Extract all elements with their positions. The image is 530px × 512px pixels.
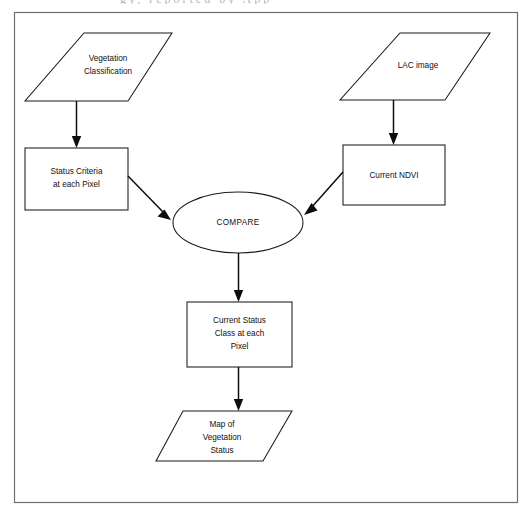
arrowhead-diagonal-icon (158, 210, 172, 221)
arrowhead-diagonal-icon (304, 203, 318, 215)
edge-criteria-to-compare (128, 176, 171, 220)
node-label-line-1: Current Status (213, 316, 266, 325)
node-map-of-vegetation-status: Map of Vegetation Status (156, 411, 292, 461)
connector-line (311, 172, 343, 208)
flowchart-canvas: Vegetation Classification LAC image Stat… (0, 0, 530, 512)
arrowhead-down-icon (234, 399, 243, 411)
node-label-line-2: Class at each (215, 329, 265, 338)
node-label-line-1: Current NDVI (369, 171, 418, 180)
flowchart-figure: gy, reported by App Vegetation Classific… (0, 0, 530, 512)
edge-ndvi-to-compare (304, 172, 343, 215)
node-label-line-1: Map of (209, 420, 235, 429)
node-label-line-1: COMPARE (216, 218, 259, 227)
rectangle-shape (25, 148, 128, 210)
arrowhead-down-icon (72, 136, 81, 148)
node-vegetation-classification: Vegetation Classification (25, 33, 172, 101)
node-label-line-3: Pixel (231, 342, 249, 351)
node-label-line-3: Status (210, 446, 233, 455)
node-label-line-1: Status Criteria (51, 167, 103, 176)
node-lac-image: LAC image (340, 33, 490, 100)
node-label-line-2: Vegetation (203, 433, 242, 442)
edge-status-to-map (234, 367, 243, 411)
edge-compare-to-status (234, 253, 243, 302)
node-current-status-class: Current Status Class at each Pixel (187, 302, 292, 367)
edge-lac-to-ndvi (389, 100, 398, 145)
arrowhead-down-icon (234, 290, 243, 302)
node-label-line-1: Vegetation (89, 54, 128, 63)
node-current-ndvi: Current NDVI (343, 145, 445, 205)
arrowhead-down-icon (389, 133, 398, 145)
node-label-line-2: Classification (84, 67, 133, 76)
connector-line (128, 176, 164, 213)
node-compare: COMPARE (173, 192, 303, 253)
node-label-line-2: at each Pixel (53, 180, 100, 189)
edge-veg-to-criteria (72, 101, 81, 148)
node-label-line-1: LAC image (398, 61, 439, 70)
node-status-criteria: Status Criteria at each Pixel (25, 148, 128, 210)
